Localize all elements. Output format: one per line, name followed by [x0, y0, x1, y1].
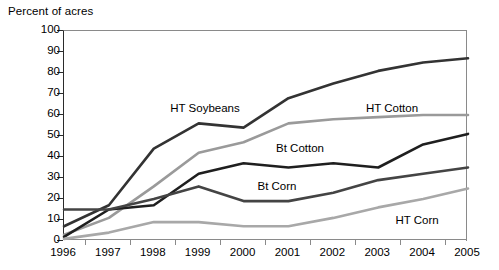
y-tick-label-40: 40: [34, 150, 60, 162]
y-axis-title: Percent of acres: [8, 5, 93, 17]
plot-area: [63, 30, 467, 240]
x-tick-minor-2: [175, 240, 176, 245]
series-label-bt-corn: Bt Corn: [256, 180, 299, 192]
y-tick-label-30: 30: [34, 171, 60, 183]
x-tick-label-2004: 2004: [399, 246, 445, 258]
y-tick-label-60: 60: [34, 108, 60, 120]
x-tick-label-2001: 2001: [264, 246, 310, 258]
x-tick-minor-8: [445, 240, 446, 245]
chart-figure: Percent of acres 0102030405060708090100 …: [0, 0, 499, 270]
x-tick-label-1998: 1998: [130, 246, 176, 258]
x-tick-label-2000: 2000: [220, 246, 266, 258]
series-label-ht-soybeans: HT Soybeans: [168, 102, 241, 114]
y-tick-label-0: 0: [34, 234, 60, 246]
y-tick-label-20: 20: [34, 192, 60, 204]
x-axis-labels: 1996199719981999200020012002200320042005: [0, 246, 499, 264]
x-tick-minor-5: [310, 240, 311, 245]
series-label-ht-corn: HT Corn: [393, 214, 440, 226]
x-tick-label-1997: 1997: [85, 246, 131, 258]
y-tick-label-10: 10: [34, 213, 60, 225]
x-tick-minor-6: [355, 240, 356, 245]
x-tick-minor-0: [85, 240, 86, 245]
y-tick-label-50: 50: [34, 129, 60, 141]
y-axis-ticks: 0102030405060708090100: [0, 30, 60, 240]
y-tick-label-70: 70: [34, 87, 60, 99]
x-tick-minor-4: [265, 240, 266, 245]
x-tick-minor-3: [220, 240, 221, 245]
y-tick-label-100: 100: [34, 24, 60, 36]
x-tick-label-2003: 2003: [354, 246, 400, 258]
y-tick-label-80: 80: [34, 66, 60, 78]
x-tick-label-2005: 2005: [444, 246, 490, 258]
x-tick-label-1999: 1999: [175, 246, 221, 258]
x-tick-label-2002: 2002: [309, 246, 355, 258]
series-label-bt-cotton: Bt Cotton: [274, 142, 326, 154]
x-tick-minor-7: [400, 240, 401, 245]
y-tick-label-90: 90: [34, 45, 60, 57]
x-tick-minor-1: [130, 240, 131, 245]
x-tick-label-1996: 1996: [40, 246, 86, 258]
series-lines: [64, 31, 468, 241]
series-label-ht-cotton: HT Cotton: [364, 102, 420, 114]
